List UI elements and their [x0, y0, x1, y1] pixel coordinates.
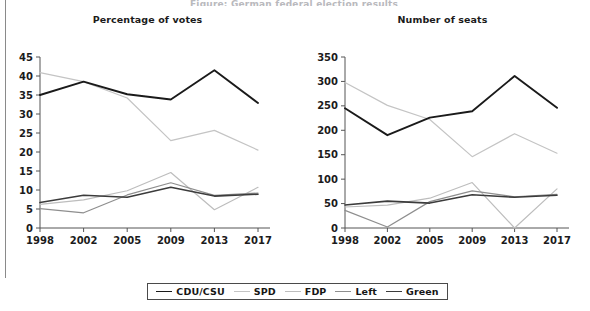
x-axis-tick-label: 2013: [200, 235, 228, 246]
y-axis-tick-label: 15: [19, 166, 33, 177]
x-axis-tick-label: 1998: [331, 235, 359, 246]
x-axis-tick-label: 2005: [113, 235, 141, 246]
legend-label: FDP: [305, 286, 327, 297]
series-line-green: [40, 187, 258, 202]
series-line-cdu-csu: [345, 76, 557, 135]
legend-entry-fdp: FDP: [285, 286, 327, 297]
legend-label: SPD: [254, 286, 276, 297]
legend-line-swatch-icon: [234, 291, 250, 292]
x-axis-tick-label: 2002: [373, 235, 401, 246]
x-axis-tick-label: 2017: [244, 235, 272, 246]
y-axis-tick-label: 20: [19, 147, 33, 158]
y-axis-tick-label: 45: [19, 52, 33, 63]
figure-root: Figure: German federal election results …: [0, 0, 590, 311]
y-axis-tick-label: 100: [317, 174, 338, 185]
legend-label: CDU/CSU: [176, 286, 224, 297]
y-axis-tick-label: 150: [317, 149, 338, 160]
series-line-cdu-csu: [40, 70, 258, 103]
legend-line-swatch-icon: [156, 291, 172, 292]
x-axis-tick-label: 2009: [157, 235, 185, 246]
y-axis-tick-label: 300: [317, 76, 338, 87]
y-axis-tick-label: 250: [317, 100, 338, 111]
x-axis-tick-label: 2017: [543, 235, 571, 246]
y-axis-tick-label: 10: [19, 185, 33, 196]
legend-label: Left: [355, 286, 377, 297]
series-line-fdp: [40, 173, 258, 210]
legend-entry-cdu-csu: CDU/CSU: [156, 286, 224, 297]
y-axis-tick-label: 5: [26, 204, 33, 215]
y-axis-tick-label: 30: [19, 109, 33, 120]
legend-entry-spd: SPD: [234, 286, 276, 297]
series-line-fdp: [345, 183, 557, 228]
x-axis-tick-label: 2009: [458, 235, 486, 246]
chart-panel-percentage-of-votes: Percentage of votes 05101520253035404519…: [0, 0, 295, 270]
series-line-spd: [345, 82, 557, 156]
legend-line-swatch-icon: [285, 291, 301, 292]
x-axis-tick-label: 2002: [70, 235, 98, 246]
y-axis-tick-label: 50: [324, 198, 338, 209]
y-axis-tick-label: 200: [317, 125, 338, 136]
legend-entry-left: Left: [335, 286, 377, 297]
y-axis-tick-label: 35: [19, 90, 33, 101]
x-axis-tick-label: 2013: [501, 235, 529, 246]
legend-line-swatch-icon: [335, 291, 351, 292]
line-chart-number-of-seats: 0501001502002503003501998200220052009201…: [295, 0, 590, 270]
line-chart-percentage-of-votes: 0510152025303540451998200220052009201320…: [0, 0, 295, 270]
y-axis-tick-label: 0: [26, 223, 33, 234]
chart-panel-number-of-seats: Number of seats 050100150200250300350199…: [295, 0, 590, 270]
y-axis-tick-label: 25: [19, 128, 33, 139]
y-axis-tick-label: 350: [317, 52, 338, 63]
x-axis-tick-label: 1998: [26, 235, 54, 246]
chart-legend: CDU/CSUSPDFDPLeftGreen: [147, 283, 448, 300]
legend-entry-green: Green: [386, 286, 439, 297]
legend-line-swatch-icon: [386, 291, 402, 292]
y-axis-tick-label: 0: [331, 223, 338, 234]
x-axis-tick-label: 2005: [416, 235, 444, 246]
bottom-spacer: [0, 305, 590, 311]
y-axis-tick-label: 40: [19, 71, 33, 82]
legend-label: Green: [406, 286, 439, 297]
